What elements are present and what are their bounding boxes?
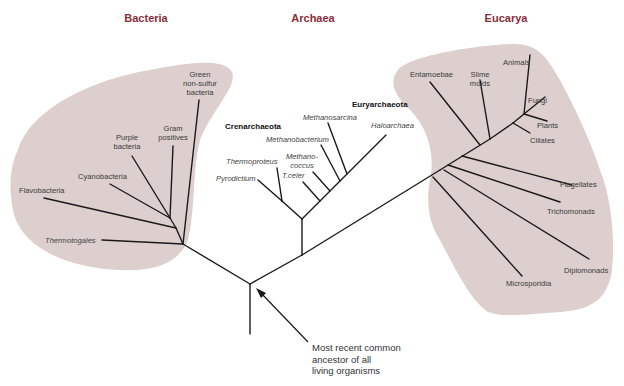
label-pyrodictium: Pyrodictium bbox=[216, 174, 256, 183]
branch-methanococcus bbox=[313, 172, 330, 191]
label-gram-positives: Gram positives bbox=[158, 124, 188, 142]
label-slime-molds: Slime molds bbox=[470, 70, 490, 88]
label-thermotogales: Thermotogales bbox=[45, 236, 96, 245]
label-microsporidia: Microsporidia bbox=[506, 279, 551, 288]
heading-archaea: Archaea bbox=[291, 12, 334, 24]
label-methanobacterium: Methanobacterium bbox=[266, 135, 329, 144]
ancestor-caption: Most recent common ancestor of all livin… bbox=[312, 342, 401, 377]
label-cyanobacteria: Cyanobacteria bbox=[78, 172, 127, 181]
label-ciliates: Ciliates bbox=[530, 136, 555, 145]
label-diplomonads: Diplomonads bbox=[564, 266, 608, 275]
label-flavobacteria: Flavobacteria bbox=[19, 186, 65, 195]
label-animals: Animals bbox=[503, 58, 530, 67]
label-purple-bacteria: Purple bacteria bbox=[113, 133, 140, 151]
label-crenarchaeota: Crenarchaeota bbox=[225, 122, 281, 131]
label-methanococcus: Methano- coccus bbox=[286, 152, 318, 170]
branch-methanobacterium bbox=[321, 145, 340, 181]
label-methanosarcina: Methanosarcina bbox=[303, 113, 357, 122]
label-green-nonsulfur: Green non-sulfur bacteria bbox=[183, 70, 217, 97]
ancestor-arrow bbox=[256, 288, 308, 342]
branch-methanosarcina bbox=[328, 123, 347, 174]
archaea-eucarya-trunk bbox=[250, 255, 302, 284]
branch-pyrodictium bbox=[258, 180, 282, 201]
heading-bacteria: Bacteria bbox=[124, 12, 167, 24]
label-haloarchaea: Haloarchaea bbox=[371, 121, 414, 130]
phylogenetic-tree-diagram: Bacteria Archaea Eucarya Green non-sulfu… bbox=[0, 0, 624, 386]
tree-graphic bbox=[0, 0, 624, 386]
label-trichomonads: Trichomonads bbox=[547, 207, 595, 216]
bacteria-trunk bbox=[183, 244, 250, 284]
label-plants: Plants bbox=[537, 121, 558, 130]
branch-haloarchaea bbox=[302, 135, 386, 219]
label-euryarchaeota: Euryarchaeota bbox=[352, 100, 408, 109]
label-entamoebae: Entamoebae bbox=[410, 70, 453, 79]
label-thermoproteus: Thermoproteus bbox=[226, 157, 278, 166]
branch-t-celer bbox=[303, 182, 320, 201]
label-flagellates: Flagellates bbox=[560, 180, 597, 189]
label-fungi: Fungi bbox=[528, 96, 547, 105]
label-t-celer: T.celer bbox=[282, 171, 305, 180]
heading-eucarya: Eucarya bbox=[485, 12, 528, 24]
